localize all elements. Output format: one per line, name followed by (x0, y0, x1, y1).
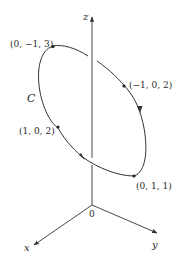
point-neg1-0-2 (122, 84, 125, 87)
point-1-0-2 (56, 125, 59, 128)
z-axis-label: z (82, 11, 89, 22)
point-label-0-neg1-3: (0, −1, 3) (10, 39, 53, 49)
origin-label: 0 (89, 209, 95, 219)
point-label-0-1-1: (0, 1, 1) (136, 181, 172, 191)
point-0-1-1 (132, 174, 135, 177)
y-axis-label: y (151, 239, 158, 250)
diagram-figure: z x y 0 (0, −1, 3) (−1, 0, 2) (0, 1, 1) … (0, 0, 173, 261)
curve-arrow-bottom (79, 153, 85, 160)
point-label-neg1-0-2: (−1, 0, 2) (129, 80, 172, 90)
curve-arrow-right (137, 106, 143, 113)
x-axis (34, 205, 92, 245)
x-axis-label: x (24, 242, 30, 253)
curve-label: C (27, 92, 36, 105)
point-label-1-0-2: (1, 0, 2) (19, 126, 55, 136)
y-axis (92, 205, 157, 233)
